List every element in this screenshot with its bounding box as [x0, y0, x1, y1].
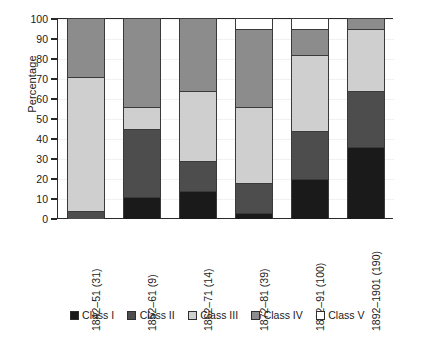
gridline — [58, 59, 394, 60]
bar-segment[interactable] — [68, 19, 104, 77]
y-axis-tick-label: 40 — [16, 134, 48, 144]
bar-segment[interactable] — [348, 29, 384, 91]
gridline — [58, 179, 394, 180]
legend-swatch-icon — [127, 311, 136, 320]
bar-segment[interactable] — [180, 91, 216, 161]
y-axis-tick — [51, 158, 57, 159]
bar-stack[interactable] — [347, 18, 385, 218]
y-axis-tick-label: 90 — [16, 34, 48, 44]
legend-label: Class I — [82, 309, 114, 321]
bar-segment[interactable] — [124, 197, 160, 219]
y-axis-tick-label: 50 — [16, 114, 48, 124]
bar-segment[interactable] — [124, 129, 160, 197]
bar-segment[interactable] — [348, 19, 384, 29]
y-axis-tick — [51, 198, 57, 199]
bar-stack[interactable] — [123, 18, 161, 218]
bar-stack[interactable] — [179, 18, 217, 218]
y-axis-tick — [51, 98, 57, 99]
y-axis-tick — [51, 18, 57, 19]
bar-segment[interactable] — [292, 131, 328, 179]
bar-segment[interactable] — [292, 19, 328, 29]
legend-item[interactable]: Class II — [127, 309, 175, 321]
gridline — [58, 159, 394, 160]
legend-swatch-icon — [188, 311, 197, 320]
y-axis-tick-label: 100 — [16, 14, 48, 24]
bar-segment[interactable] — [124, 19, 160, 107]
gridline — [58, 79, 394, 80]
y-axis-tick-label: 0 — [16, 214, 48, 224]
gridline — [58, 99, 394, 100]
legend-label: Class II — [140, 309, 175, 321]
legend-item[interactable]: Class IV — [251, 309, 303, 321]
y-axis-tick — [51, 38, 57, 39]
y-axis-tick-label: 10 — [16, 194, 48, 204]
legend-swatch-icon — [251, 311, 260, 320]
stacked-bar-chart: Percentage 0102030405060708090100 1842–5… — [0, 0, 434, 344]
y-axis-tick-label: 20 — [16, 174, 48, 184]
plot-area — [57, 19, 393, 219]
bar-segment[interactable] — [68, 211, 104, 219]
gridline — [58, 19, 394, 20]
bar-segment[interactable] — [292, 55, 328, 131]
y-axis-tick-label: 30 — [16, 154, 48, 164]
bar-segment[interactable] — [348, 147, 384, 219]
y-axis-tick — [51, 178, 57, 179]
y-axis-tick — [51, 138, 57, 139]
bar-stack[interactable] — [67, 18, 105, 218]
bar-segment[interactable] — [180, 161, 216, 191]
gridline — [58, 139, 394, 140]
gridline — [58, 119, 394, 120]
legend-swatch-icon — [316, 311, 325, 320]
bar-segment[interactable] — [124, 107, 160, 129]
legend-item[interactable]: Class I — [70, 309, 115, 321]
legend-label: Class V — [328, 309, 364, 321]
bar-segment[interactable] — [236, 183, 272, 213]
bar-segment[interactable] — [68, 77, 104, 211]
y-axis-tick — [51, 78, 57, 79]
chart-legend: Class IClass IIClass IIIClass IVClass V — [0, 309, 434, 321]
y-axis-tick — [51, 118, 57, 119]
bar-segment[interactable] — [236, 19, 272, 29]
legend-swatch-icon — [70, 311, 79, 320]
gridline — [58, 39, 394, 40]
y-axis-tick-label: 70 — [16, 74, 48, 84]
bar-stack[interactable] — [291, 18, 329, 218]
legend-item[interactable]: Class III — [188, 309, 238, 321]
y-axis-tick — [51, 58, 57, 59]
bar-segment[interactable] — [236, 29, 272, 107]
bar-segment[interactable] — [348, 91, 384, 147]
bar-segment[interactable] — [292, 29, 328, 55]
bar-stack[interactable] — [235, 18, 273, 218]
bar-segment[interactable] — [236, 213, 272, 219]
legend-item[interactable]: Class V — [316, 309, 365, 321]
bar-segment[interactable] — [236, 107, 272, 183]
y-axis-tick-label: 80 — [16, 54, 48, 64]
gridline — [58, 199, 394, 200]
y-axis-tick — [51, 218, 57, 219]
bar-segment[interactable] — [292, 179, 328, 219]
y-axis-tick-label: 60 — [16, 94, 48, 104]
legend-label: Class III — [200, 309, 238, 321]
bar-segment[interactable] — [180, 191, 216, 219]
bar-segment[interactable] — [180, 19, 216, 91]
legend-label: Class IV — [264, 309, 303, 321]
